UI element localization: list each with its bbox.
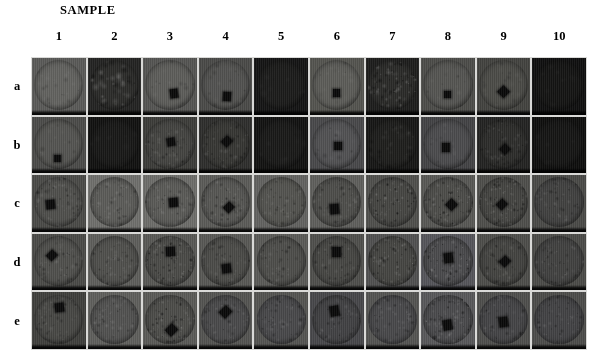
specimen-cell-a8[interactable]	[420, 57, 476, 116]
column-header-1: 1	[31, 26, 87, 46]
specimen-cell-c8[interactable]	[420, 174, 476, 233]
specimen-cell-d8[interactable]	[420, 233, 476, 292]
base-shadow	[88, 344, 142, 349]
specimen-cell-e1[interactable]	[31, 291, 87, 350]
inclusion-square	[170, 88, 179, 98]
row-label-e: e	[5, 292, 29, 351]
specimen-cell-d9[interactable]	[476, 233, 532, 292]
base-shadow	[366, 285, 420, 290]
inclusion-square	[332, 247, 341, 257]
specimen-cell-a4[interactable]	[198, 57, 254, 116]
base-shadow	[254, 168, 308, 173]
specimen-row-b	[31, 116, 587, 175]
base-shadow	[421, 285, 475, 290]
base-shadow	[366, 168, 420, 173]
base-shadow	[143, 227, 197, 232]
specimen-cell-b4[interactable]	[198, 116, 254, 175]
row-label-a: a	[5, 57, 29, 116]
specimen-texture-dark	[90, 119, 139, 169]
column-header-6: 6	[309, 26, 365, 46]
inclusion-square	[333, 89, 340, 97]
specimen-cell-b7[interactable]	[365, 116, 421, 175]
specimen-texture-dark	[90, 60, 139, 110]
specimen-cell-b2[interactable]	[87, 116, 143, 175]
specimen-texture-dark	[257, 236, 306, 286]
column-header-7: 7	[365, 26, 421, 46]
base-shadow	[310, 344, 364, 349]
specimen-cell-c1[interactable]	[31, 174, 87, 233]
base-shadow	[199, 110, 253, 115]
base-shadow	[254, 285, 308, 290]
specimen-cell-a3[interactable]	[142, 57, 198, 116]
specimen-cell-c4[interactable]	[198, 174, 254, 233]
specimen-cell-c2[interactable]	[87, 174, 143, 233]
base-shadow	[366, 344, 420, 349]
column-header-10: 10	[531, 26, 587, 46]
inclusion-square	[169, 197, 178, 207]
specimen-cell-d4[interactable]	[198, 233, 254, 292]
specimen-cell-c9[interactable]	[476, 174, 532, 233]
specimen-cell-c6[interactable]	[309, 174, 365, 233]
specimen-cell-e4[interactable]	[198, 291, 254, 350]
specimen-cell-e2[interactable]	[87, 291, 143, 350]
specimen-cell-e8[interactable]	[420, 291, 476, 350]
specimen-cell-a10[interactable]	[531, 57, 587, 116]
specimen-cell-e6[interactable]	[309, 291, 365, 350]
base-shadow	[477, 344, 531, 349]
specimen-cell-b9[interactable]	[476, 116, 532, 175]
base-shadow	[477, 110, 531, 115]
inclusion-square	[444, 91, 451, 99]
specimen-cell-e9[interactable]	[476, 291, 532, 350]
specimen-cell-b8[interactable]	[420, 116, 476, 175]
specimen-texture-dark	[257, 295, 306, 345]
specimen-cell-b10[interactable]	[531, 116, 587, 175]
specimen-cell-c10[interactable]	[531, 174, 587, 233]
base-shadow	[421, 344, 475, 349]
specimen-cell-e5[interactable]	[253, 291, 309, 350]
specimen-texture-dark	[145, 60, 194, 110]
specimen-cell-b1[interactable]	[31, 116, 87, 175]
specimen-cell-c7[interactable]	[365, 174, 421, 233]
specimen-image-grid	[31, 57, 587, 350]
specimen-cell-d5[interactable]	[253, 233, 309, 292]
specimen-cell-e10[interactable]	[531, 291, 587, 350]
specimen-row-a	[31, 57, 587, 116]
specimen-cell-a6[interactable]	[309, 57, 365, 116]
specimen-cell-a5[interactable]	[253, 57, 309, 116]
specimen-texture-dark	[257, 60, 306, 110]
specimen-cell-c5[interactable]	[253, 174, 309, 233]
specimen-cell-d10[interactable]	[531, 233, 587, 292]
specimen-cell-d3[interactable]	[142, 233, 198, 292]
sample-grid-figure: SAMPLE 1 2 3 4 5 6 7 8 9 10 a b c d e	[0, 0, 592, 351]
specimen-texture-dark	[423, 60, 472, 110]
specimen-cell-b5[interactable]	[253, 116, 309, 175]
figure-title: SAMPLE	[60, 3, 116, 18]
specimen-texture-dark	[201, 236, 250, 286]
specimen-cell-a1[interactable]	[31, 57, 87, 116]
specimen-texture-dark	[257, 177, 306, 227]
specimen-cell-d6[interactable]	[309, 233, 365, 292]
base-shadow	[477, 168, 531, 173]
base-shadow	[421, 110, 475, 115]
specimen-cell-d1[interactable]	[31, 233, 87, 292]
specimen-cell-a9[interactable]	[476, 57, 532, 116]
specimen-texture-dark	[368, 119, 417, 169]
specimen-cell-d7[interactable]	[365, 233, 421, 292]
column-header-8: 8	[420, 26, 476, 46]
specimen-cell-b3[interactable]	[142, 116, 198, 175]
column-headers: 1 2 3 4 5 6 7 8 9 10	[31, 26, 587, 46]
specimen-cell-a2[interactable]	[87, 57, 143, 116]
specimen-cell-c3[interactable]	[142, 174, 198, 233]
specimen-cell-d2[interactable]	[87, 233, 143, 292]
base-shadow	[366, 110, 420, 115]
base-shadow	[310, 110, 364, 115]
inclusion-square	[329, 305, 340, 316]
specimen-cell-a7[interactable]	[365, 57, 421, 116]
specimen-cell-b6[interactable]	[309, 116, 365, 175]
base-shadow	[532, 110, 586, 115]
specimen-cell-e3[interactable]	[142, 291, 198, 350]
base-shadow	[199, 227, 253, 232]
inclusion-square	[54, 155, 61, 163]
specimen-cell-e7[interactable]	[365, 291, 421, 350]
base-shadow	[254, 344, 308, 349]
